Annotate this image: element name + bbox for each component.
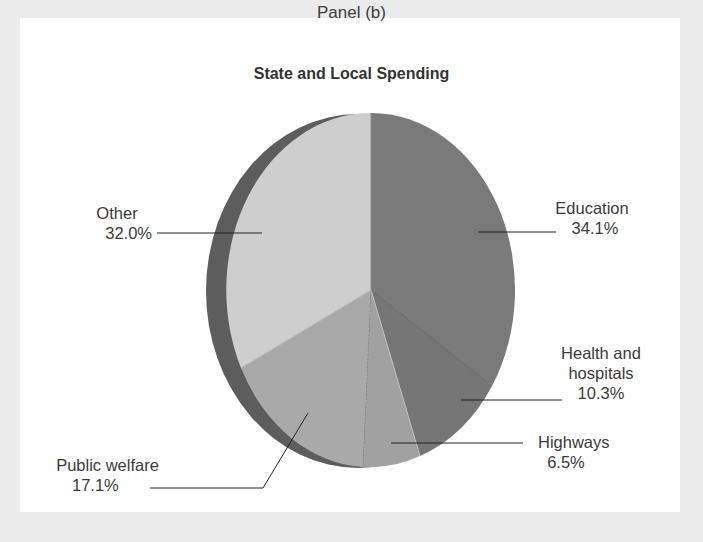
- label-highways-value: 6.5%: [526, 452, 606, 472]
- label-education-name: Education: [542, 198, 642, 218]
- label-health-name-line2: hospitals: [546, 363, 656, 383]
- label-other: Other 32.0%: [60, 203, 152, 243]
- label-public-welfare-name: Public welfare: [40, 455, 175, 475]
- label-highways: Highways 6.5%: [526, 432, 606, 472]
- label-other-name: Other: [60, 203, 152, 223]
- label-other-value: 32.0%: [60, 223, 152, 243]
- label-health-value: 10.3%: [546, 383, 656, 403]
- label-health-and-hospitals: Health and hospitals 10.3%: [546, 343, 656, 403]
- label-public-welfare-value: 17.1%: [40, 475, 175, 495]
- label-highways-name: Highways: [526, 432, 606, 452]
- label-health-name-line1: Health and: [546, 343, 656, 363]
- label-public-welfare: Public welfare 17.1%: [40, 455, 175, 495]
- label-education-value: 34.1%: [542, 218, 642, 238]
- label-education: Education 34.1%: [542, 198, 642, 238]
